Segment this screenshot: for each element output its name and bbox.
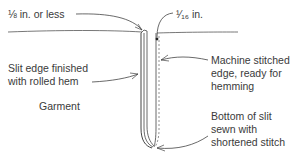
label-machine-2: edge, ready for bbox=[211, 67, 282, 79]
leader-machine-edge bbox=[161, 57, 208, 60]
label-machine-3: hemming bbox=[211, 80, 254, 92]
label-slit-edge-1: Slit edge finished bbox=[8, 62, 88, 74]
label-bottom-1: Bottom of slit bbox=[211, 110, 272, 122]
leader-slit-edge bbox=[92, 74, 138, 82]
label-sixteenth-inch: ¹⁄₁₆ in. bbox=[176, 8, 203, 20]
top-edge-left-line bbox=[8, 31, 142, 33]
label-bottom-3: shortened stitch bbox=[211, 136, 285, 148]
leader-bottom-slit bbox=[157, 136, 208, 148]
label-garment: Garment bbox=[39, 100, 80, 112]
machine-edge-line bbox=[154, 33, 156, 147]
label-eighth-inch: ⅛ in. or less bbox=[8, 8, 65, 20]
label-bottom-2: sewn with bbox=[211, 123, 257, 135]
stitch-start-dot bbox=[156, 38, 159, 41]
label-machine-1: Machine stitched bbox=[211, 54, 290, 66]
rolled-hem-mid bbox=[144, 33, 153, 147]
label-slit-edge-2: with rolled hem bbox=[8, 75, 79, 87]
rolled-hem-inner bbox=[147, 31, 154, 146]
top-edge-right-line bbox=[157, 32, 238, 33]
rolled-hem-outer bbox=[141, 33, 152, 148]
leader-eighth-inch bbox=[76, 14, 142, 30]
rolled-hem-top bbox=[141, 30, 147, 33]
leader-sixteenth-inch bbox=[157, 13, 173, 37]
